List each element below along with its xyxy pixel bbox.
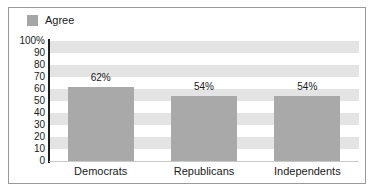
- y-axis-tick-label: 20: [34, 132, 45, 142]
- x-axis-tick-label: Independents: [252, 165, 362, 177]
- legend-label-agree: Agree: [45, 15, 74, 26]
- y-axis-tick-labels: 100%9080706050403020100: [9, 41, 45, 161]
- y-axis-tick-label: 80: [34, 60, 45, 70]
- chart-frame: Agree 100%9080706050403020100 62%54%54% …: [8, 7, 366, 184]
- bar: [68, 87, 134, 161]
- bar-value-label: 62%: [71, 73, 131, 83]
- y-axis-tick-label: 0: [39, 156, 45, 166]
- plot-area: 62%54%54%: [49, 41, 359, 161]
- legend-swatch-agree: [27, 15, 38, 26]
- y-axis-tick-label: 100%: [19, 36, 45, 46]
- y-axis-tick-label: 10: [34, 144, 45, 154]
- gridline-band: [49, 41, 359, 53]
- bar: [171, 96, 237, 161]
- bar: [274, 96, 340, 161]
- y-axis-tick-label: 50: [34, 96, 45, 106]
- y-axis-tick-label: 30: [34, 120, 45, 130]
- y-axis-tick-label: 70: [34, 72, 45, 82]
- x-axis-tick-label: Democrats: [46, 165, 156, 177]
- y-axis-line: [48, 39, 50, 163]
- x-axis-tick-label: Republicans: [149, 165, 259, 177]
- bar-value-label: 54%: [277, 82, 337, 92]
- y-axis-tick-label: 40: [34, 108, 45, 118]
- x-axis-category-labels: DemocratsRepublicansIndependents: [49, 165, 359, 179]
- y-axis-tick-label: 60: [34, 84, 45, 94]
- x-axis-line: [49, 161, 359, 162]
- chart-legend: Agree: [27, 13, 74, 27]
- y-axis-tick-label: 90: [34, 48, 45, 58]
- bar-value-label: 54%: [174, 82, 234, 92]
